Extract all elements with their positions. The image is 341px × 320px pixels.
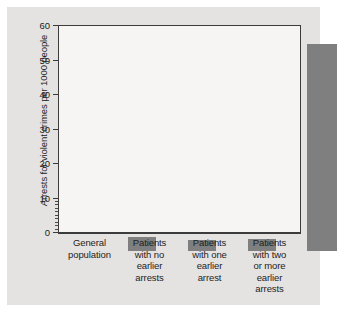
x-label-line: arrests (120, 272, 180, 284)
x-label-line: earlier (180, 260, 240, 272)
bar-3 (307, 44, 337, 251)
x-axis-line (58, 232, 301, 234)
bar-series (112, 44, 341, 251)
x-label-line: General (60, 237, 120, 249)
chart-figure: Arrests for violent crimes per 1000 peop… (7, 7, 320, 305)
x-label-line: Patients (120, 237, 180, 249)
x-label-line: earlier (120, 260, 180, 272)
y-tick-label-30: 30 (39, 123, 50, 134)
x-label-3: Patientswith twoor moreearlierarrests (240, 237, 300, 295)
y-tick-label-40: 40 (39, 89, 50, 100)
y-axis-tick-labels: 0102030405060 (7, 25, 50, 233)
x-label-line: with one (180, 249, 240, 261)
x-label-line: or more (240, 260, 300, 272)
x-label-line: with no (120, 249, 180, 261)
x-label-1: Patientswith noearlierarrests (120, 237, 180, 283)
y-tick-label-10: 10 (39, 192, 50, 203)
plot-area (58, 25, 301, 232)
y-tick-label-50: 50 (39, 54, 50, 65)
x-label-line: population (60, 249, 120, 261)
x-label-2: Patientswith oneearlierarrest (180, 237, 240, 283)
x-label-line: arrests (240, 283, 300, 295)
x-label-line: earlier (240, 272, 300, 284)
x-label-line: with two (240, 249, 300, 261)
y-tick-label-60: 60 (39, 20, 50, 31)
x-label-line: Patients (240, 237, 300, 249)
y-tick-label-20: 20 (39, 158, 50, 169)
x-axis-category-labels: GeneralpopulationPatientswith noearliera… (60, 237, 300, 303)
x-label-line: Patients (180, 237, 240, 249)
x-label-line: arrest (180, 272, 240, 284)
y-tick-label-0: 0 (45, 227, 50, 238)
x-label-0: Generalpopulation (60, 237, 120, 260)
